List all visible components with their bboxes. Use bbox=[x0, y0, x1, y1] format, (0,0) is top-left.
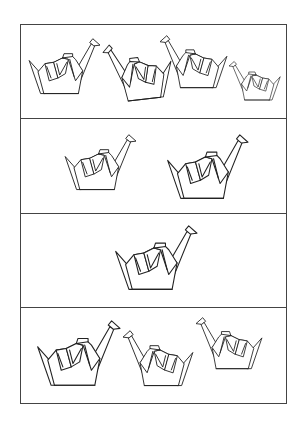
panel-divider bbox=[20, 307, 287, 308]
origami-crane-icon bbox=[64, 134, 136, 191]
origami-crane-icon bbox=[160, 35, 228, 89]
origami-crane-icon bbox=[28, 38, 100, 95]
origami-crane-icon bbox=[36, 320, 120, 387]
origami-crane-icon bbox=[229, 61, 281, 101]
origami-crane-icon bbox=[123, 330, 194, 387]
origami-crane-icon bbox=[114, 225, 197, 291]
origami-crane-icon bbox=[166, 134, 248, 200]
panel-divider bbox=[20, 213, 287, 214]
figure-stage bbox=[0, 0, 301, 424]
origami-crane-icon bbox=[196, 317, 263, 370]
panel-divider bbox=[20, 118, 287, 119]
